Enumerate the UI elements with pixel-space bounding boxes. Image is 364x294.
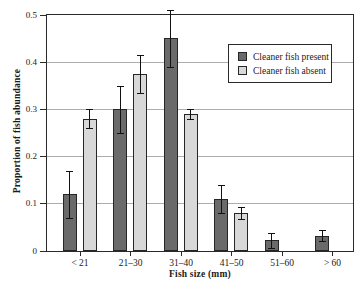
x-tick-label: 41–50 [210, 258, 254, 268]
legend-label-absent: Cleaner fish absent [253, 66, 326, 76]
error-bar [89, 109, 90, 128]
error-bar-cap [187, 119, 194, 120]
x-axis-title: Fish size (mm) [128, 269, 272, 279]
legend-item-absent: Cleaner fish absent [238, 66, 331, 76]
x-tick-label: < 21 [58, 258, 102, 268]
error-bar-cap [319, 241, 326, 242]
error-bar-cap [137, 93, 144, 94]
legend-label-present: Cleaner fish present [253, 52, 329, 62]
error-bar [271, 233, 272, 247]
x-axis-tick [80, 252, 81, 256]
y-axis-tick [40, 62, 46, 63]
error-bar-cap [167, 10, 174, 11]
present-swatch-icon [238, 52, 247, 61]
y-axis-tick [40, 15, 46, 16]
error-bar-cap [117, 133, 124, 134]
absent-swatch-icon [238, 66, 247, 75]
error-bar-cap [319, 230, 326, 231]
error-bar [120, 86, 121, 133]
error-bar-cap [86, 128, 93, 129]
error-bar-cap [66, 171, 73, 172]
error-bar-cap [117, 86, 124, 87]
bar-absent [133, 74, 147, 251]
error-bar-cap [187, 109, 194, 110]
bar-chart-figure: Proportion of fish abundance 00.10.20.30… [0, 0, 364, 294]
y-tick-label: 0.5 [15, 11, 37, 20]
bar-present [164, 38, 178, 250]
x-axis-tick [130, 252, 131, 256]
error-bar-cap [238, 219, 245, 220]
error-bar-cap [167, 67, 174, 68]
error-bar [322, 230, 323, 241]
error-bar-cap [86, 109, 93, 110]
bar-absent [83, 119, 97, 251]
legend: Cleaner fish present Cleaner fish absent [228, 44, 332, 83]
error-bar [140, 55, 141, 93]
y-axis-tick [40, 156, 46, 157]
x-axis-tick [332, 252, 333, 256]
x-axis-tick [282, 252, 283, 256]
error-bar [190, 109, 191, 118]
error-bar-cap [66, 218, 73, 219]
error-bar [170, 10, 171, 67]
x-tick-label: 51–60 [260, 258, 304, 268]
x-axis-tick [231, 252, 232, 256]
error-bar-cap [137, 55, 144, 56]
y-axis-tick [40, 109, 46, 110]
y-tick-label: 0.4 [15, 58, 37, 67]
y-axis-title: Proportion of fish abundance [12, 61, 22, 201]
y-tick-label: 0.2 [15, 152, 37, 161]
legend-item-present: Cleaner fish present [238, 52, 331, 62]
y-tick-label: 0.3 [15, 105, 37, 114]
error-bar-cap [238, 207, 245, 208]
x-axis-tick [181, 252, 182, 256]
bar-absent [184, 114, 198, 251]
error-bar [69, 171, 70, 218]
y-tick-label: 0 [15, 247, 37, 256]
error-bar-cap [218, 213, 225, 214]
x-tick-label: 21–30 [109, 258, 153, 268]
x-tick-label: 31–40 [159, 258, 203, 268]
error-bar [221, 185, 222, 213]
x-tick-label: > 60 [311, 258, 355, 268]
error-bar-cap [218, 185, 225, 186]
error-bar-cap [268, 248, 275, 249]
error-bar [241, 207, 242, 218]
y-tick-label: 0.1 [15, 199, 37, 208]
error-bar-cap [268, 233, 275, 234]
y-axis-tick [40, 251, 46, 252]
y-axis-tick [40, 203, 46, 204]
